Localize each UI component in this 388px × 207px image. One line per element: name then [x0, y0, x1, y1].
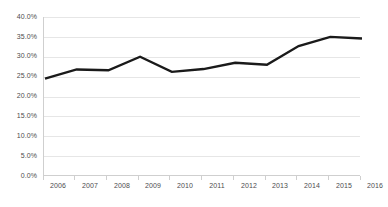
y-tick-label: 10.0%	[3, 132, 37, 140]
y-tick-label: 0.0%	[3, 172, 37, 180]
x-tick	[169, 176, 170, 180]
x-tick	[328, 176, 329, 180]
y-tick-label: 15.0%	[3, 112, 37, 120]
plot-area	[43, 17, 360, 176]
y-tick-label: 35.0%	[3, 33, 37, 41]
y-tick-label: 20.0%	[3, 92, 37, 100]
x-tick	[201, 176, 202, 180]
x-tick	[265, 176, 266, 180]
x-tick-label: 2016	[355, 182, 388, 190]
x-tick	[296, 176, 297, 180]
x-tick	[74, 176, 75, 180]
x-tick	[233, 176, 234, 180]
series-line	[43, 17, 360, 176]
x-tick	[138, 176, 139, 180]
y-tick-label: 25.0%	[3, 72, 37, 80]
y-tick-label: 30.0%	[3, 52, 37, 60]
y-tick-label: 40.0%	[3, 13, 37, 21]
y-tick-label: 5.0%	[3, 152, 37, 160]
x-tick	[106, 176, 107, 180]
x-tick	[43, 176, 44, 180]
x-tick	[360, 176, 361, 180]
